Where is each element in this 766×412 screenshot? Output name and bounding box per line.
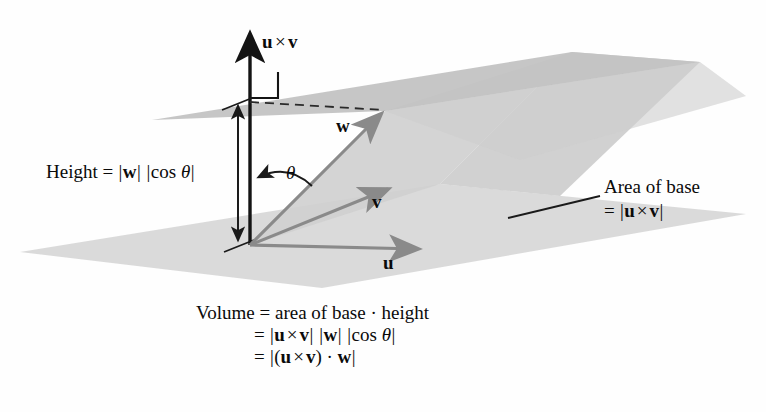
area-of-base-text: Area of base — [604, 176, 700, 197]
vector-w-symbol: w — [338, 346, 352, 367]
abs-bar: | — [391, 324, 396, 345]
label-height-equation: Height = |w| |cos θ| — [46, 161, 195, 183]
cross-symbol: × — [291, 346, 306, 367]
height-word: height — [382, 302, 430, 323]
formula-line-1: Volume = area of base · height — [196, 302, 429, 324]
equals-sign: = — [260, 302, 271, 323]
formula-line-3: = |(u×v) · w| — [196, 346, 429, 368]
vector-u-symbol: u — [262, 31, 273, 52]
close-paren: ) — [315, 346, 321, 367]
abs-bar: | — [136, 161, 141, 182]
volume-word: Volume — [196, 302, 255, 323]
cross-symbol: × — [273, 31, 288, 52]
height-word: Height — [46, 161, 98, 182]
label-angle-theta: θ — [286, 162, 295, 184]
abs-bar: | — [337, 324, 342, 345]
vector-w-symbol: w — [123, 161, 137, 182]
cross-symbol: × — [285, 324, 300, 345]
theta-symbol: θ — [181, 161, 190, 182]
vector-v-symbol: v — [300, 324, 310, 345]
abs-bar: | — [190, 161, 195, 182]
figure-canvas: u×v w v u θ Height = |w| |cos θ| Area of… — [0, 0, 766, 412]
abs-bar: | — [659, 200, 664, 221]
vector-u-symbol: u — [624, 200, 635, 221]
theta-symbol: θ — [382, 324, 391, 345]
label-vector-w: w — [336, 115, 350, 137]
abs-bar: | — [309, 324, 314, 345]
abs-bar: | — [351, 346, 356, 367]
vector-v-symbol: v — [306, 346, 316, 367]
vector-v-symbol: v — [288, 31, 298, 52]
area-of-base-value: = |u×v| — [604, 200, 700, 222]
area-of-base-text: area of base — [275, 302, 366, 323]
equals-sign: = — [102, 161, 113, 182]
dot-operator: · — [370, 302, 376, 323]
dot-operator: · — [326, 346, 332, 367]
cross-symbol: × — [635, 200, 650, 221]
right-angle-marker — [250, 72, 278, 98]
vector-u-symbol: u — [281, 346, 292, 367]
label-vector-v: v — [372, 191, 382, 213]
label-area-of-base: Area of base = |u×v| — [604, 176, 700, 222]
equals-sign: = — [254, 346, 265, 367]
cos-function: cos — [151, 161, 176, 182]
label-vector-u: u — [383, 252, 394, 274]
vector-u-symbol: u — [274, 324, 285, 345]
vector-w-symbol: w — [323, 324, 337, 345]
formula-line-2: = |u×v| |w| |cos θ| — [196, 324, 429, 346]
volume-formula-block: Volume = area of base · height = |u×v| |… — [196, 302, 429, 368]
label-cross-product: u×v — [262, 31, 298, 53]
equals-sign: = — [604, 200, 615, 221]
vector-v-symbol: v — [650, 200, 660, 221]
cos-function: cos — [352, 324, 377, 345]
equals-sign: = — [254, 324, 265, 345]
